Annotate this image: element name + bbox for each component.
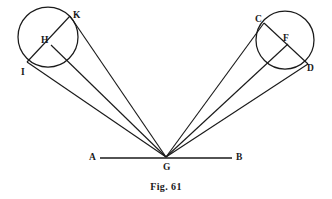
point-label-f: F [283,34,289,44]
ray-g-h [51,45,166,157]
point-label-b: B [236,153,243,163]
ray-g-f [166,44,288,157]
ray-g-d [166,64,308,157]
point-label-d: D [307,64,314,74]
point-label-i: I [21,68,25,78]
point-label-c: C [255,15,262,25]
point-label-k: K [73,11,81,21]
ray-g-i [27,62,166,157]
point-label-g: G [163,163,171,173]
figure-caption: Fig. 61 [0,181,332,192]
point-label-a: A [89,153,96,163]
figure-61: K H I C F D A B G Fig. 61 [0,0,332,199]
point-label-h: H [41,36,49,46]
chord-c-d [264,23,308,64]
ray-g-c [166,23,264,157]
ray-g-k [70,16,166,157]
